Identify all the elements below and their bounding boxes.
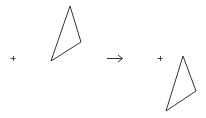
center-plus-icon-after	[158, 56, 163, 61]
triangle-before	[51, 6, 81, 61]
triangle-after	[166, 56, 196, 111]
center-plus-icon-before	[11, 56, 16, 61]
right-arrow-icon	[107, 55, 123, 62]
transformation-diagram	[0, 0, 206, 118]
after-group	[158, 56, 197, 111]
before-group	[11, 6, 82, 61]
